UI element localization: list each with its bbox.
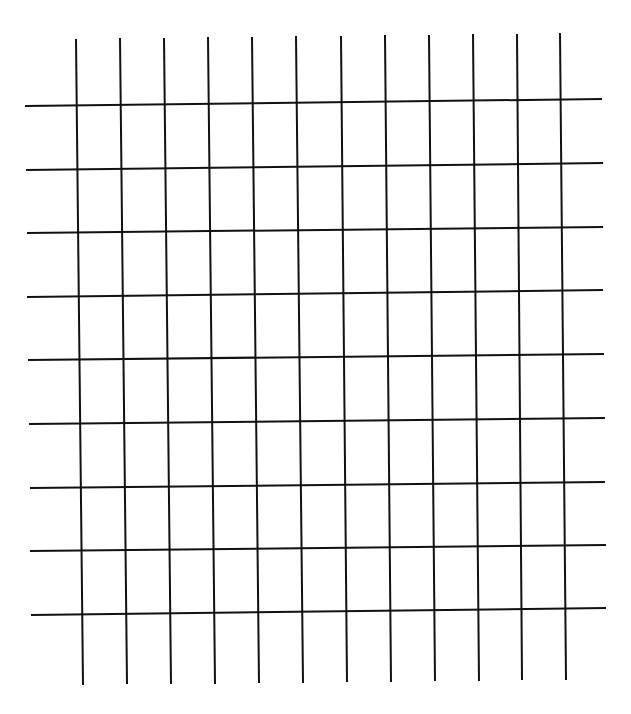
horizontal-grid-line xyxy=(26,163,603,170)
horizontal-grid-line xyxy=(25,99,602,106)
vertical-grid-line xyxy=(208,37,215,684)
vertical-grid-line xyxy=(164,38,171,684)
vertical-grid-line xyxy=(76,39,83,685)
grid-diagram xyxy=(0,0,631,714)
vertical-grid-line xyxy=(560,33,566,680)
horizontal-grid-line xyxy=(29,418,605,424)
horizontal-grid-line xyxy=(28,354,604,360)
vertical-grid-line xyxy=(517,34,522,680)
vertical-grid-line xyxy=(120,38,127,684)
horizontal-grid-line xyxy=(30,482,605,488)
vertical-grid-line xyxy=(473,34,479,681)
horizontal-grid-line xyxy=(30,545,606,551)
vertical-grid-line xyxy=(429,35,435,681)
horizontal-grid-line xyxy=(27,290,603,297)
vertical-grid-line xyxy=(341,36,347,682)
horizontal-grid-line xyxy=(27,227,603,233)
vertical-grid-line xyxy=(296,36,303,683)
vertical-grid-line xyxy=(252,37,259,683)
vertical-grid-line xyxy=(385,35,391,682)
horizontal-grid-line xyxy=(31,608,606,615)
